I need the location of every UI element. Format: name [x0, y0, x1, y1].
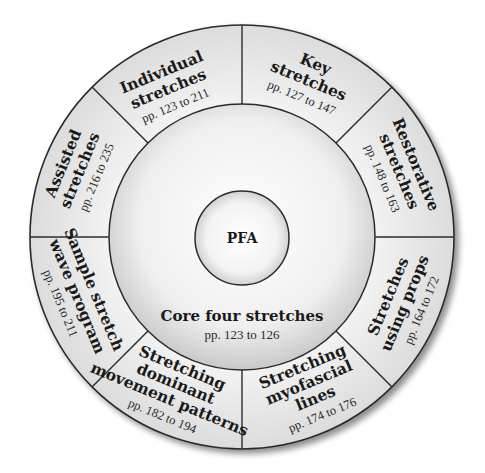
core-pages: pp. 123 to 126 — [204, 327, 280, 342]
stretch-program-wheel-diagram: PFA Core four stretches pp. 123 to 126 I… — [0, 0, 485, 473]
core-title: Core four stretches — [161, 307, 324, 325]
pfa-label: PFA — [227, 230, 259, 246]
